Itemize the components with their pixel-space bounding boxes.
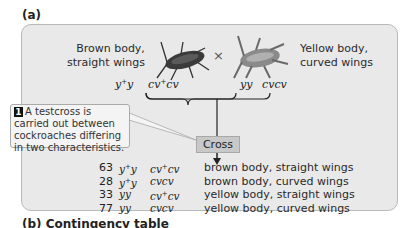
parent2-line2: curved wings	[300, 56, 373, 70]
progeny-phenotype: yellow body, curved wings	[204, 202, 350, 215]
parent1-line1: Brown body,	[67, 42, 145, 56]
parent2-wing-genotype: cvcv	[262, 78, 287, 91]
cross-symbol: ×	[213, 48, 224, 63]
progeny-phenotype: brown body, straight wings	[204, 161, 354, 174]
parent1-line2: straight wings	[67, 56, 145, 70]
progeny-count: 77	[95, 202, 113, 215]
cockroach-brown-icon	[157, 42, 209, 80]
progeny-count: 63	[95, 161, 113, 174]
progeny-phenotype: brown body, curved wings	[204, 175, 349, 188]
cross-box: Cross	[196, 136, 240, 153]
progeny-wing-genotype: cvcv	[150, 202, 174, 215]
parent2-phenotype: Yellow body, curved wings	[300, 42, 373, 70]
cockroach-yellow-icon	[234, 36, 288, 78]
progeny-phenotype: yellow body, straight wings	[204, 188, 355, 201]
step-number-badge: 1	[14, 107, 23, 117]
parent1-body-genotype: y+y	[115, 78, 133, 91]
callout-text: A testcross is carried out between cockr…	[14, 106, 124, 153]
progeny-wing-genotype: cvcv	[150, 175, 174, 188]
progeny-count: 33	[95, 188, 113, 201]
parent1-wing-genotype: cv+cv	[148, 78, 179, 91]
parent2-body-genotype: yy	[240, 78, 252, 91]
progeny-body-genotype: yy	[119, 202, 131, 215]
parent1-phenotype: Brown body, straight wings	[67, 42, 145, 70]
panel-b-label: (b) Contingency table	[22, 217, 169, 228]
progeny-body-genotype: yy	[119, 188, 131, 201]
progeny-count: 28	[95, 175, 113, 188]
callout-step-1: 1A testcross is carried out between cock…	[10, 104, 130, 148]
parent2-line1: Yellow body,	[300, 42, 373, 56]
